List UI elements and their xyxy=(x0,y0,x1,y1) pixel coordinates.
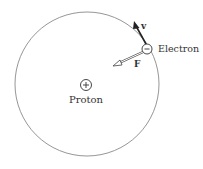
force-arrow: F xyxy=(113,52,143,69)
proton: Proton xyxy=(69,80,104,106)
electron-label: Electron xyxy=(158,43,199,54)
force-label: F xyxy=(134,59,141,69)
velocity-arrow: v xyxy=(133,21,147,44)
bohr-diagram: Proton F v Electron xyxy=(0,0,203,169)
force-arrowhead-icon xyxy=(113,60,122,66)
proton-label: Proton xyxy=(69,94,104,105)
velocity-label: v xyxy=(140,21,147,31)
electron: Electron xyxy=(142,43,199,54)
